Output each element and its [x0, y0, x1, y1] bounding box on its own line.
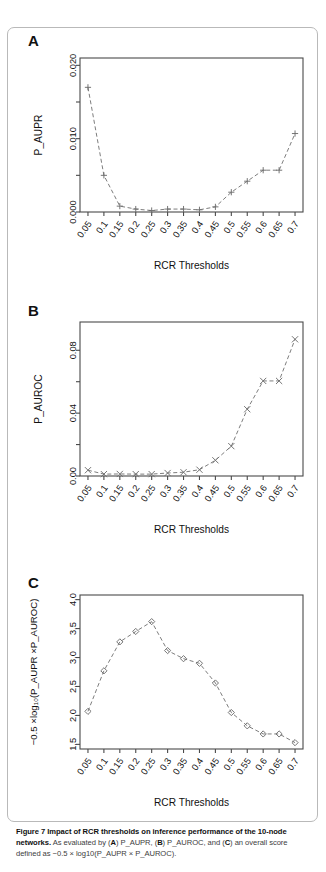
svg-text:−0.5 ×log₁₀(P_AUPR ×P_AUROC): −0.5 ×log₁₀(P_AUPR ×P_AUROC) — [28, 599, 39, 746]
panel-b: B 0.000.040.080.050.10.150.20.250.30.350… — [0, 300, 326, 558]
svg-text:3.0: 3.0 — [68, 651, 78, 664]
svg-text:0.15: 0.15 — [107, 219, 126, 240]
svg-text:0.45: 0.45 — [203, 219, 222, 240]
svg-text:0.00: 0.00 — [68, 467, 78, 485]
svg-text:0.05: 0.05 — [75, 483, 94, 504]
svg-text:0.05: 0.05 — [75, 219, 94, 240]
svg-text:2.5: 2.5 — [68, 680, 78, 693]
svg-text:0.05: 0.05 — [75, 756, 94, 777]
panel-c-plot: 1.52.02.53.03.54.00.050.10.150.20.250.30… — [0, 572, 326, 822]
svg-text:0.65: 0.65 — [266, 219, 285, 240]
svg-text:0.7: 0.7 — [285, 483, 301, 499]
svg-text:0.7: 0.7 — [285, 756, 301, 772]
svg-text:0.25: 0.25 — [139, 219, 158, 240]
svg-text:0.55: 0.55 — [235, 756, 254, 777]
svg-text:0.25: 0.25 — [139, 756, 158, 777]
svg-text:0.45: 0.45 — [203, 483, 222, 504]
svg-text:0.000: 0.000 — [68, 200, 78, 223]
svg-text:4.0: 4.0 — [68, 593, 78, 606]
svg-text:0.15: 0.15 — [107, 483, 126, 504]
svg-text:0.15: 0.15 — [107, 756, 126, 777]
svg-text:P_AUPR: P_AUPR — [33, 115, 44, 156]
svg-text:RCR Thresholds: RCR Thresholds — [154, 260, 229, 271]
svg-text:3.5: 3.5 — [68, 622, 78, 635]
caption-text-2: ) P_AUPR, ( — [116, 838, 157, 847]
panel-a-plot: 0.0000.0100.0200.050.10.150.20.250.30.35… — [0, 30, 326, 285]
svg-text:P_AUROC: P_AUROC — [33, 374, 44, 423]
caption-text-1: As evaluated by ( — [51, 838, 110, 847]
svg-text:0.65: 0.65 — [266, 483, 285, 504]
svg-text:0.7: 0.7 — [285, 219, 301, 235]
caption-text-3: ) P_AUROC, and ( — [163, 838, 225, 847]
svg-text:0.25: 0.25 — [139, 483, 158, 504]
svg-text:1.5: 1.5 — [68, 738, 78, 751]
svg-text:0.08: 0.08 — [68, 341, 78, 359]
svg-text:0.35: 0.35 — [171, 483, 190, 504]
panel-a: A 0.0000.0100.0200.050.10.150.20.250.30.… — [0, 30, 326, 285]
svg-text:0.65: 0.65 — [266, 756, 285, 777]
svg-text:0.35: 0.35 — [171, 756, 190, 777]
svg-text:2.0: 2.0 — [68, 709, 78, 722]
figure-caption: Figure 7 Impact of RCR thresholds on inf… — [16, 826, 312, 860]
svg-text:0.010: 0.010 — [68, 127, 78, 150]
svg-text:0.45: 0.45 — [203, 756, 222, 777]
svg-text:RCR Thresholds: RCR Thresholds — [154, 797, 229, 808]
svg-text:0.55: 0.55 — [235, 483, 254, 504]
svg-text:0.04: 0.04 — [68, 404, 78, 422]
svg-text:0.020: 0.020 — [68, 54, 78, 77]
svg-text:0.55: 0.55 — [235, 219, 254, 240]
panel-c: C 1.52.02.53.03.54.00.050.10.150.20.250.… — [0, 572, 326, 822]
svg-text:RCR Thresholds: RCR Thresholds — [154, 524, 229, 535]
panel-b-plot: 0.000.040.080.050.10.150.20.250.30.350.4… — [0, 300, 326, 558]
svg-text:0.35: 0.35 — [171, 219, 190, 240]
